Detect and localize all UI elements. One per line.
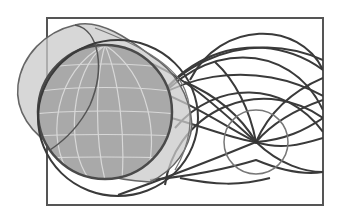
focus-point	[254, 140, 258, 144]
illustration-stage: Globe with signal wave propagation	[0, 0, 342, 214]
globe-wave-diagram	[0, 0, 342, 214]
